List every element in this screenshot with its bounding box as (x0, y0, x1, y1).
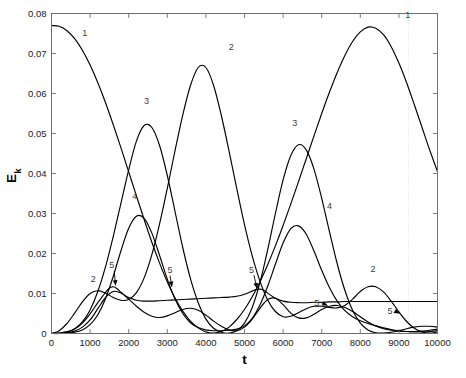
y-tick-label: 0.08 (28, 8, 47, 19)
curve-number-label: 1 (82, 28, 87, 38)
curve-number-label: 2 (229, 42, 234, 52)
curve-number-label: 5 (314, 298, 319, 308)
y-tick-label: 0.03 (28, 208, 47, 219)
x-tick-label: 1000 (80, 337, 101, 348)
curve-number-label: 1 (405, 10, 410, 20)
axis-box (52, 14, 438, 334)
figure-container: 0100020003000400050006000700080009000100… (0, 0, 466, 378)
x-tick-label: 4000 (195, 337, 216, 348)
x-tick-label: 8000 (350, 337, 371, 348)
y-axis-title: Ek (4, 168, 23, 183)
y-tick-label: 0.04 (28, 168, 47, 179)
y-tick-label: 0.07 (28, 48, 47, 59)
x-tick-label: 7000 (311, 337, 332, 348)
curve-number-label: 3 (292, 118, 297, 128)
curve-number-label: 4 (132, 191, 137, 201)
y-tick-label: 0.06 (28, 88, 47, 99)
y-tick-label: 0 (41, 328, 46, 339)
plot-canvas: 0100020003000400050006000700080009000100… (0, 0, 466, 378)
y-axis-title-base: E (4, 174, 19, 183)
x-tick-label: 10000 (424, 337, 450, 348)
curve-number-label: 5 (109, 260, 114, 270)
curve-3 (52, 124, 438, 333)
y-tick-label: 0.01 (28, 288, 47, 299)
x-tick-label: 9000 (388, 337, 409, 348)
y-tick-label: 0.02 (28, 248, 47, 259)
caption-strip (0, 370, 466, 378)
curve-4 (52, 215, 438, 333)
curve-number-label: 5 (388, 306, 393, 316)
x-tick-label: 0 (49, 337, 54, 348)
y-axis-title-subscript: k (12, 168, 23, 174)
curve-number-label: 4 (327, 201, 332, 211)
curve-number-label: 5 (167, 265, 172, 275)
y-tick-label: 0.05 (28, 128, 47, 139)
x-axis-title: t (242, 352, 247, 367)
curve-number-label: 2 (371, 264, 376, 274)
x-tick-label: 5000 (234, 337, 255, 348)
x-tick-label: 2000 (118, 337, 139, 348)
x-tick-label: 6000 (273, 337, 294, 348)
curve-5b (52, 291, 438, 333)
curve-number-label: 3 (144, 96, 149, 106)
x-tick-label: 3000 (157, 337, 178, 348)
curve-number-label: 2 (91, 274, 96, 284)
curve-number-label: 5 (249, 265, 254, 275)
